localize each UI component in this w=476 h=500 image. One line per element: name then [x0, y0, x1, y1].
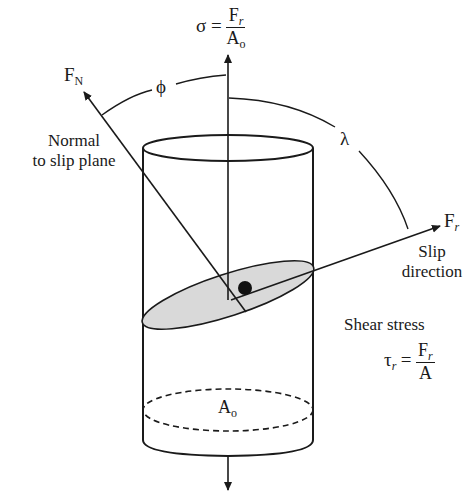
fn-symbol: F — [64, 64, 75, 85]
sigma-symbol: σ — [196, 15, 206, 36]
denominator-symbol: A — [226, 28, 239, 48]
lambda-symbol: λ — [340, 128, 349, 149]
lambda-angle-arc-2 — [359, 151, 408, 229]
cylinder-bottom-arc — [143, 440, 313, 456]
phi-angle-arc-2 — [176, 75, 226, 84]
ao-symbol: A — [218, 397, 231, 417]
shear-numerator-symbol: F — [418, 340, 428, 360]
slip-line-1: Slip — [386, 242, 476, 262]
normal-line-1: Normal — [16, 131, 132, 151]
normal-vector-arrow — [84, 92, 246, 312]
stress-fraction: Fr Ao — [226, 5, 245, 50]
normal-stress-label: σ = Fr Ao — [196, 5, 245, 50]
equals-sign: = — [211, 15, 222, 36]
lambda-label: λ — [340, 128, 349, 150]
shear-fraction: Fr A — [416, 340, 435, 383]
shear-numerator-subscript: r — [428, 349, 433, 363]
equals-sign-2: = — [401, 349, 412, 370]
denominator-subscript: o — [239, 37, 245, 51]
shear-stress-formula: τr = Fr A — [384, 340, 435, 383]
cross-section-area-label: Ao — [218, 397, 237, 418]
fraction-numerator: Fr — [226, 5, 245, 28]
lambda-angle-arc — [229, 98, 335, 127]
slip-direction-label: Slip direction — [386, 242, 476, 282]
shear-numerator: Fr — [416, 340, 435, 363]
shear-denominator-symbol: A — [419, 363, 432, 383]
fraction-denominator: Ao — [226, 28, 245, 50]
phi-label: ϕ — [156, 76, 166, 98]
fr-symbol: F — [444, 210, 455, 231]
numerator-subscript: r — [239, 14, 244, 28]
ao-subscript: o — [231, 406, 237, 420]
fn-subscript: N — [75, 74, 84, 88]
tau-subscript: r — [392, 359, 397, 373]
shear-stress-title-text: Shear stress — [344, 315, 425, 334]
numerator-symbol: F — [229, 5, 239, 25]
fr-subscript: r — [455, 220, 460, 234]
shear-denominator: A — [416, 363, 435, 383]
phi-symbol: ϕ — [156, 76, 166, 97]
slip-line-2: direction — [386, 262, 476, 282]
normal-force-label: FN — [64, 64, 83, 86]
shear-stress-title: Shear stress — [344, 315, 425, 335]
normal-to-slip-plane-label: Normal to slip plane — [16, 131, 132, 171]
slip-force-label: Fr — [444, 210, 459, 232]
center-dot — [238, 281, 252, 295]
normal-line-2: to slip plane — [16, 151, 132, 171]
phi-angle-arc — [102, 90, 152, 115]
tau-symbol: τ — [384, 349, 392, 370]
